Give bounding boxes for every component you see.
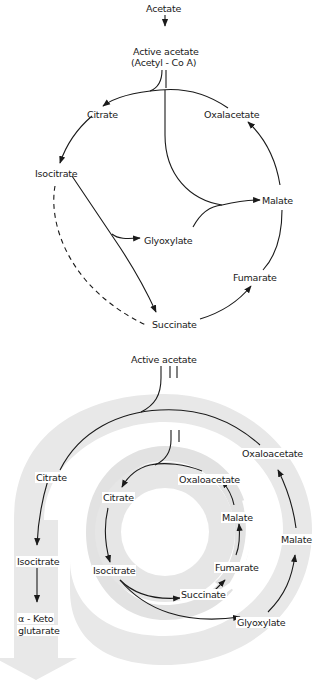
arrow-succinate-to-fumarate bbox=[200, 286, 251, 319]
arrow-citrate-to-isocitrate bbox=[60, 116, 92, 163]
arrow-glyoxylate-to-malate bbox=[193, 200, 260, 227]
label-inner-fumarate: Fumarate bbox=[214, 562, 260, 573]
label-acetyl-coa: (Acetyl - Co A) bbox=[131, 57, 196, 68]
label-inner-succinate: Succinate bbox=[180, 589, 227, 600]
label-inner-isocitrate: Isocitrate bbox=[92, 565, 136, 576]
label-succinate: Succinate bbox=[152, 319, 197, 330]
label-outer-malate: Malate bbox=[280, 534, 313, 545]
label-inner-citrate: Citrate bbox=[102, 492, 135, 503]
label-fumarate: Fumarate bbox=[233, 272, 277, 283]
label-outer-isocitrate: Isocitrate bbox=[16, 556, 60, 567]
label-alpha-keto: α - Keto bbox=[17, 613, 54, 624]
label-glutarate: glutarate bbox=[17, 625, 61, 636]
outer-band-arrow-down bbox=[0, 520, 77, 680]
label-glyoxylate-bottom: Glyoxylate bbox=[236, 617, 286, 628]
label-acetate: Acetate bbox=[146, 3, 181, 14]
label-malate: Malate bbox=[262, 195, 293, 206]
label-inner-oxaloacetate: Oxaloacetate bbox=[178, 474, 241, 485]
label-glyoxylate: Glyoxylate bbox=[144, 235, 192, 246]
line-malate-to-fumarate bbox=[263, 210, 282, 270]
arrow-malate-to-oxalacetate bbox=[248, 122, 280, 185]
label-oxalacetate: Oxalacetate bbox=[204, 109, 259, 120]
dashed-isocitrate-to-succinate bbox=[54, 186, 148, 326]
label-outer-oxaloacetate: Oxaloacetate bbox=[241, 448, 304, 459]
label-citrate: Citrate bbox=[87, 109, 118, 120]
pathway-diagram-canvas bbox=[0, 0, 329, 687]
line-acetyl-to-citrate-join bbox=[150, 70, 162, 91]
label-outer-citrate: Citrate bbox=[35, 472, 68, 483]
label-active-acetate-bottom: Active acetate bbox=[131, 354, 197, 365]
line-acetyl-to-malate bbox=[165, 90, 222, 205]
arrow-isocitrate-to-glyoxylate bbox=[112, 234, 140, 239]
label-inner-malate: Malate bbox=[221, 512, 254, 523]
label-active-acetate: Active acetate bbox=[133, 46, 199, 57]
label-isocitrate: Isocitrate bbox=[35, 168, 77, 179]
